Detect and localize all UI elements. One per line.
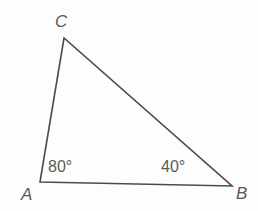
vertex-label-b: B xyxy=(236,185,247,202)
vertex-label-c: C xyxy=(55,13,67,30)
angle-label-at-a: 80° xyxy=(48,159,72,175)
angle-label-at-b: 40° xyxy=(161,159,185,175)
triangle-shape xyxy=(0,0,258,211)
vertex-label-a: A xyxy=(21,186,32,203)
triangle-figure: C A B 80° 40° xyxy=(0,0,258,211)
